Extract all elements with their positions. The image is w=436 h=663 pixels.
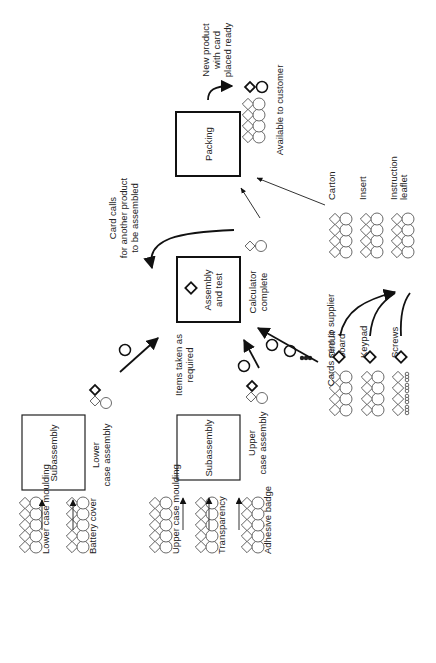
stock-transparency: Transparency (195, 496, 227, 554)
process-label: Subassembly (203, 419, 214, 476)
stock-label: Carton (326, 171, 337, 200)
svg-text:Upper: Upper (246, 430, 257, 456)
svg-text:Cards sent to supplier: Cards sent to supplier (325, 294, 336, 386)
stock-label: Upper case moulding (170, 464, 181, 554)
calculator-complete-output: Calculator complete (241, 188, 269, 313)
stock-adhesive-badge: Adhesive badge (241, 486, 273, 554)
components-to-assembly (258, 328, 318, 362)
stock-insert: Insert (357, 176, 383, 258)
diagram-canvas: Subassembly Subassembly Assembly and tes… (0, 0, 436, 663)
new-product-note: New product with card placed ready (200, 23, 233, 78)
stock-screws: Screws (389, 327, 409, 416)
svg-text:complete: complete (258, 273, 269, 312)
svg-text:with card: with card (211, 31, 222, 70)
kanban-flow-diagram: Subassembly Subassembly Assembly and tes… (0, 0, 436, 663)
stock-carton: Carton (326, 171, 352, 258)
svg-text:for another product: for another product (118, 178, 129, 259)
stock-label: Adhesive badge (262, 486, 273, 554)
card-calls-loop: Card calls for another product to be ass… (107, 178, 234, 268)
svg-text:case assembly: case assembly (257, 411, 268, 474)
stock-battery-cover: Battery cover (66, 497, 98, 554)
packing-inputs (257, 178, 325, 205)
stock-label: Battery cover (87, 498, 98, 554)
stock-available-to-customer (242, 98, 265, 143)
stock-keypad: Keypad (358, 326, 384, 416)
svg-text:Calculator: Calculator (247, 271, 258, 314)
svg-text:Available to customer: Available to customer (274, 65, 285, 156)
items-taken-label-1: Items taken as (173, 334, 184, 396)
process-packing: Packing (176, 112, 240, 176)
upper-case-assembly-output: Upper case assembly (239, 340, 269, 474)
process-label-line1: Assembly (202, 269, 213, 310)
stock-instruction-leaflet: Instructionleaflet (388, 156, 414, 258)
process-subassembly-upper: Subassembly (177, 415, 240, 480)
svg-text:Lower: Lower (90, 442, 101, 468)
stock-label: Transparency (216, 496, 227, 554)
svg-text:New product: New product (200, 23, 211, 77)
svg-text:placed ready: placed ready (222, 23, 233, 78)
process-label-line2: and test (213, 273, 224, 307)
stock-upper-case-moulding: Upper case moulding (149, 464, 181, 554)
process-subassembly-lower: Subassembly (22, 415, 85, 490)
stock-label: Insert (357, 176, 368, 200)
process-assembly-test: Assembly and test (177, 257, 240, 322)
svg-text:to be assembled: to be assembled (129, 183, 140, 253)
lower-case-assembly-output: Lower case assembly (90, 338, 158, 486)
items-taken-label-2: required (184, 348, 195, 383)
svg-text:Card calls: Card calls (107, 197, 118, 239)
process-label: Packing (203, 127, 214, 161)
stock-label: leaflet (398, 174, 409, 200)
svg-text:case assembly: case assembly (101, 423, 112, 486)
